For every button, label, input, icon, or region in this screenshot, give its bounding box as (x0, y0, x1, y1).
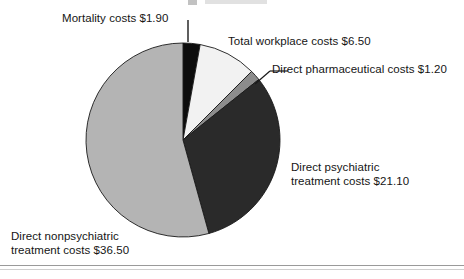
chart-area: Mortality costs $1.90 Total workplace co… (0, 0, 464, 279)
pie-chart-figure: Mortality costs $1.90 Total workplace co… (0, 0, 464, 279)
slice-label-psychiatric: Direct psychiatric treatment costs $21.1… (291, 161, 409, 188)
bottom-divider-secondary (0, 269, 464, 270)
bottom-divider (0, 265, 464, 266)
pie-slices-group (86, 43, 280, 237)
slice-label-workplace: Total workplace costs $6.50 (228, 35, 371, 49)
slice-label-pharmaceutical: Direct pharmaceutical costs $1.20 (272, 63, 447, 77)
slice-label-nonpsychiatric: Direct nonpsychiatric treatment costs $3… (11, 230, 129, 257)
slice-label-mortality: Mortality costs $1.90 (62, 12, 169, 26)
